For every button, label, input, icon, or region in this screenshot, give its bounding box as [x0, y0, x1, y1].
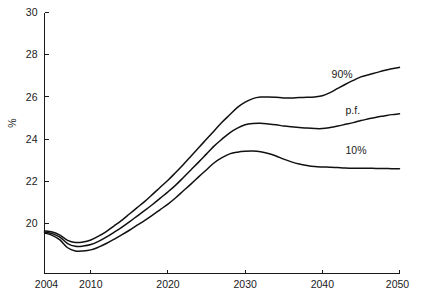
- y-tick-label-24: 24: [26, 133, 38, 145]
- x-tick-label-2004: 2004: [35, 278, 59, 290]
- x-tick-label-2020: 2020: [156, 278, 180, 290]
- series-label-pf: p.f.: [345, 104, 360, 116]
- chart-container: 202224262830 200420102020203020402050 90…: [0, 0, 423, 301]
- x-tick-label-2030: 2030: [233, 278, 257, 290]
- series-label-90: 90%: [332, 68, 353, 80]
- series-label-10: 10%: [345, 144, 366, 156]
- series-lines: [45, 67, 400, 251]
- y-tick-label-22: 22: [26, 175, 38, 187]
- x-tick-label-2040: 2040: [311, 278, 335, 290]
- x-tick-labels: 200420102020203020402050: [35, 278, 410, 290]
- x-tick-label-2050: 2050: [386, 278, 410, 290]
- y-tick-label-20: 20: [26, 217, 38, 229]
- y-tick-label-28: 28: [26, 48, 38, 60]
- y-tick-label-26: 26: [26, 91, 38, 103]
- line-chart: 202224262830 200420102020203020402050 90…: [0, 0, 423, 301]
- x-tick-label-2010: 2010: [79, 278, 103, 290]
- y-tick-label-30: 30: [26, 6, 38, 18]
- y-tick-labels: 202224262830: [26, 6, 38, 229]
- y-axis-title: %: [6, 118, 18, 127]
- series-line-pf: [45, 114, 400, 247]
- series-annotations: 90%p.f.10%: [332, 68, 367, 156]
- y-axis-title-text: %: [6, 118, 18, 127]
